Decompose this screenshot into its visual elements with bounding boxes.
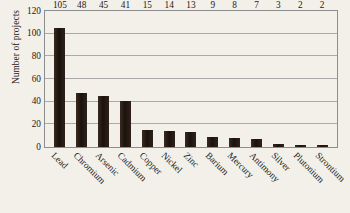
- x-label-slot: Chromium: [70, 150, 92, 212]
- bar-chart: Number of projects 020406080100120 10548…: [0, 0, 350, 213]
- x-label-slot: Cadmium: [114, 150, 136, 212]
- y-axis-title: Number of projects: [11, 0, 21, 107]
- bar-value-label: 13: [186, 1, 195, 10]
- bar[interactable]: 2: [317, 145, 328, 147]
- bar-value-label: 3: [276, 1, 281, 10]
- bar[interactable]: 13: [185, 132, 196, 147]
- x-label-slot: Barium: [202, 150, 224, 212]
- bar-slot: 45: [93, 11, 115, 147]
- bar-value-label: 105: [53, 1, 67, 10]
- bar-series: 105484541151413987322: [45, 11, 337, 147]
- bar-slot: 3: [267, 11, 289, 147]
- bar[interactable]: 45: [98, 96, 109, 147]
- bar-slot: 2: [311, 11, 333, 147]
- y-axis-tick-label: 40: [32, 97, 41, 106]
- y-axis-tick-label: 0: [36, 142, 41, 151]
- x-axis-tick-label: Zinc: [181, 151, 200, 170]
- bar-slot: 8: [224, 11, 246, 147]
- x-label-slot: Nickel: [158, 150, 180, 212]
- y-axis-tick-label: 100: [27, 29, 41, 38]
- bar-slot: 48: [71, 11, 93, 147]
- x-axis-labels: LeadChromiumArsenicCadmiumCopperNickelZi…: [44, 150, 338, 212]
- x-label-slot: Silver: [268, 150, 290, 212]
- bar-value-label: 41: [121, 1, 130, 10]
- x-label-slot: Plutonium: [290, 150, 312, 212]
- x-label-slot: Lead: [48, 150, 70, 212]
- bar[interactable]: 2: [295, 145, 306, 147]
- bar-value-label: 15: [143, 1, 152, 10]
- bar-value-label: 7: [254, 1, 259, 10]
- bar[interactable]: 105: [54, 28, 65, 147]
- y-axis-tick-label: 20: [32, 120, 41, 129]
- bar-slot: 7: [246, 11, 268, 147]
- bar[interactable]: 41: [120, 101, 131, 147]
- bar-value-label: 2: [298, 1, 303, 10]
- bar-value-label: 2: [320, 1, 325, 10]
- y-axis-tick-label: 120: [27, 6, 41, 15]
- bar-slot: 14: [158, 11, 180, 147]
- x-label-slot: Copper: [136, 150, 158, 212]
- y-axis-tick-label: 60: [32, 74, 41, 83]
- bar[interactable]: 15: [142, 130, 153, 147]
- bar-value-label: 8: [232, 1, 237, 10]
- x-axis-tick-label: Strontium: [313, 151, 346, 184]
- bar-slot: 9: [202, 11, 224, 147]
- bar-value-label: 14: [164, 1, 173, 10]
- bar[interactable]: 9: [207, 137, 218, 147]
- x-label-slot: Antimony: [246, 150, 268, 212]
- bar[interactable]: 8: [229, 138, 240, 147]
- y-axis-tick-label: 80: [32, 52, 41, 61]
- bar-value-label: 9: [211, 1, 216, 10]
- x-label-slot: Mercury: [224, 150, 246, 212]
- bar-value-label: 45: [99, 1, 108, 10]
- x-label-slot: Zinc: [180, 150, 202, 212]
- bar[interactable]: 3: [273, 144, 284, 147]
- bar[interactable]: 7: [251, 139, 262, 147]
- bar-slot: 15: [136, 11, 158, 147]
- bar-slot: 105: [49, 11, 71, 147]
- bar-value-label: 48: [77, 1, 86, 10]
- bar-slot: 41: [115, 11, 137, 147]
- bar-slot: 2: [289, 11, 311, 147]
- bar-slot: 13: [180, 11, 202, 147]
- bar[interactable]: 48: [76, 93, 87, 147]
- plot-area: 020406080100120 105484541151413987322: [44, 10, 338, 148]
- bar[interactable]: 14: [164, 131, 175, 147]
- x-axis-tick-label: Lead: [49, 151, 69, 171]
- x-label-slot: Arsenic: [92, 150, 114, 212]
- x-axis-tick-label: Silver: [269, 151, 291, 173]
- x-label-slot: Strontium: [312, 150, 334, 212]
